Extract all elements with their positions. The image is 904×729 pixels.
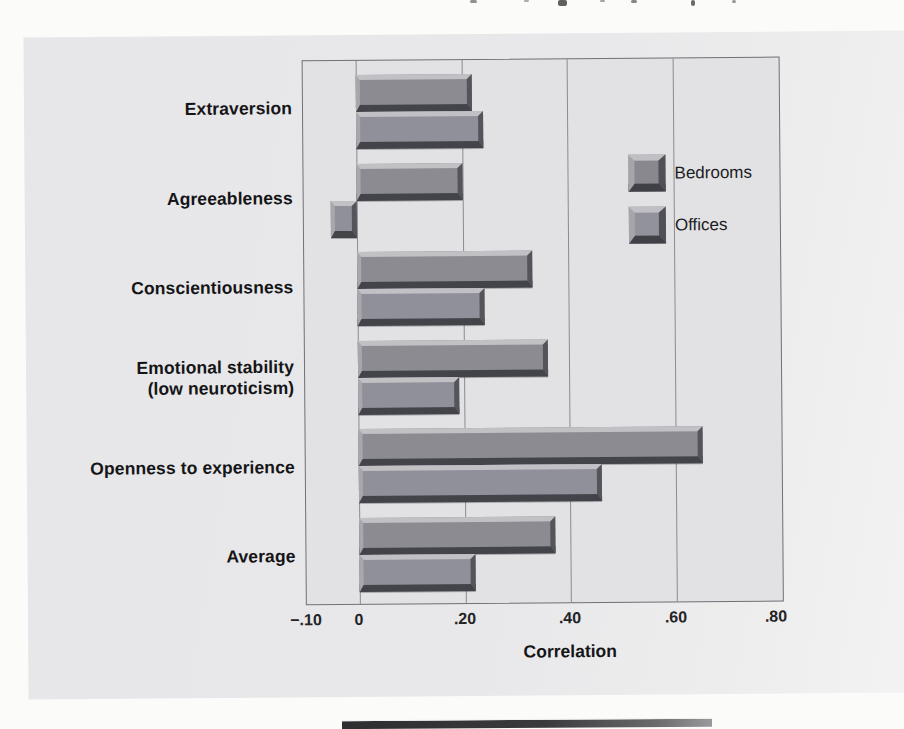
gridline-040 (567, 59, 572, 602)
x-tick-0: 0 (354, 611, 363, 629)
bar-conscientiousness-bedrooms (357, 251, 532, 289)
legend: Bedrooms Offices (628, 154, 778, 155)
x-tick-020: .20 (454, 610, 476, 628)
legend-label-offices: Offices (675, 214, 728, 234)
legend-swatch-bedrooms (628, 154, 665, 191)
x-tick-040: .40 (559, 609, 581, 627)
x-tick-080: .80 (765, 608, 787, 626)
category-label-agreeableness: Agreeableness (25, 188, 293, 211)
bar-average-bedrooms (359, 516, 555, 555)
bar-conscientiousness-offices (357, 288, 484, 326)
bar-average-offices (359, 554, 475, 592)
category-label-extraversion: Extraversion (24, 98, 292, 121)
category-label-average: Average (27, 546, 295, 569)
bar-agreeableness-bedrooms (356, 163, 462, 201)
adjacent-content-edge (342, 718, 712, 729)
category-label-conscientiousness: Conscientiousness (25, 277, 293, 300)
bar-openness-offices (359, 464, 602, 503)
bar-extraversion-offices (356, 111, 483, 149)
legend-label-bedrooms: Bedrooms (674, 162, 752, 183)
legend-item-bedrooms: Bedrooms (628, 154, 752, 192)
plot-area: Bedrooms Offices (302, 57, 784, 606)
bar-agreeableness-offices (331, 201, 357, 238)
bar-extraversion-bedrooms (356, 74, 472, 112)
legend-item-offices: Offices (629, 206, 728, 244)
bar-emotional-stability-bedrooms (358, 339, 548, 377)
x-tick-neg010: −.10 (290, 611, 322, 629)
category-labels: Extraversion Agreeableness Conscientious… (23, 31, 904, 38)
scanned-page: Extraversion Agreeableness Conscientious… (0, 0, 904, 729)
x-axis-title: Correlation (523, 641, 617, 663)
cropped-text-fragments (0, 0, 904, 8)
category-label-openness: Openness to experience (27, 457, 295, 480)
figure-panel: Extraversion Agreeableness Conscientious… (23, 31, 904, 700)
x-axis: −.10 0 .20 .40 .60 .80 (23, 31, 904, 38)
legend-swatch-offices (629, 206, 666, 243)
bar-emotional-stability-offices (358, 377, 459, 415)
bar-openness-bedrooms (358, 426, 702, 466)
x-tick-060: .60 (665, 608, 687, 626)
category-label-emotional-stability: Emotional stability(low neuroticism) (26, 357, 294, 400)
gridline-060 (673, 58, 678, 601)
